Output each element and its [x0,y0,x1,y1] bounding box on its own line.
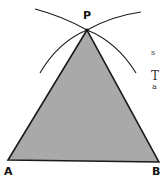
triangle-apb [8,30,159,162]
label-b: B [152,165,160,178]
text-fragment-a: a [152,82,157,91]
label-a: A [4,165,13,178]
text-fragment-t: T [151,69,159,83]
text-fragment-s: s [151,48,155,57]
arc-upper-left [35,9,87,30]
triangle-construction-figure: P A B s T a [0,0,160,178]
arc-upper-right [87,12,141,30]
apex-point [85,28,88,31]
label-p: P [83,9,91,22]
